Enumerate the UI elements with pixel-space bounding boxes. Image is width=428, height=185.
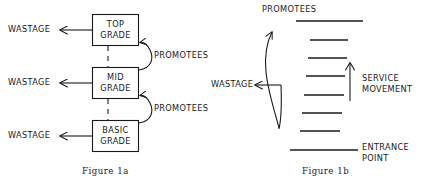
wastage-label-top: WASTAGE	[8, 25, 50, 35]
box-label-mid-grade-line2: GRADE	[92, 83, 139, 94]
wastage-feed-line	[279, 85, 281, 129]
panel-b-ladder-rungs	[290, 21, 363, 150]
promotees-curve-arrow	[265, 32, 279, 128]
box-label-basic-grade-line1: BASIC	[92, 125, 139, 136]
service-movement-label-line1: SERVICE	[362, 74, 399, 84]
entrance-point-label-line2: POINT	[362, 154, 389, 164]
entrance-point-label-line1: ENTRANCE	[362, 143, 409, 153]
figure-container: WASTAGE WASTAGE WASTAGE TOP GRADE MID GR…	[0, 0, 428, 185]
box-label-top-grade-line1: TOP	[92, 19, 139, 30]
promotee-arrow-basic-to-mid	[139, 95, 152, 123]
wastage-label-basic: WASTAGE	[8, 131, 50, 141]
box-label-basic-grade-line2: GRADE	[92, 136, 139, 147]
box-label-top-grade-line2: GRADE	[92, 30, 139, 41]
panel-a-wastage-arrows	[60, 30, 92, 136]
wastage-label-mid: WASTAGE	[8, 78, 50, 88]
promotees-label-lower: PROMOTEES	[154, 104, 208, 114]
promotee-arrow-mid-to-top	[139, 42, 152, 70]
promotees-label-right-panel: PROMOTEES	[262, 5, 316, 15]
box-label-mid-grade-line1: MID	[92, 72, 139, 83]
caption-figure-1b: Figure 1b	[302, 166, 349, 176]
wastage-label-right-panel: WASTAGE	[211, 80, 253, 90]
caption-figure-1a: Figure 1a	[82, 166, 129, 176]
promotees-label-upper: PROMOTEES	[154, 51, 208, 61]
service-movement-label-line2: MOVEMENT	[362, 85, 412, 95]
panel-a-promotee-arrows	[139, 42, 152, 123]
